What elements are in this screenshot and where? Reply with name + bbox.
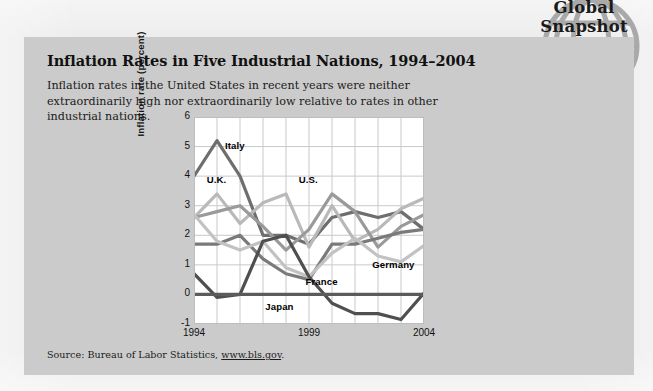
badge-line-2: Snapshot: [515, 17, 653, 36]
y-tick-label: 2: [164, 228, 190, 239]
inflation-line-chart: Inflation rate (percent) -10123456 19941…: [139, 115, 449, 345]
y-tick-label: 1: [164, 258, 190, 269]
source-note: Source: Bureau of Labor Statistics, www.…: [47, 349, 284, 360]
y-tick-label: 6: [164, 110, 190, 121]
y-tick-label: 5: [164, 140, 190, 151]
series-label-germany: Germany: [372, 259, 414, 270]
page-title: Inflation Rates in Five Industrial Natio…: [47, 52, 475, 69]
series-label-italy: Italy: [225, 140, 245, 151]
series-label-japan: Japan: [265, 301, 293, 312]
source-prefix: Source: Bureau of Labor Statistics,: [47, 349, 221, 360]
series-label-us: U.S.: [299, 174, 318, 185]
source-link[interactable]: www.bls.gov: [221, 349, 281, 360]
y-axis-ticks: -10123456: [159, 115, 190, 324]
x-tick-label: 2004: [413, 327, 435, 338]
x-tick-label: 1994: [183, 327, 205, 338]
y-tick-label: 3: [164, 199, 190, 210]
series-label-france: France: [306, 276, 338, 287]
y-axis-label: Inflation rate (percent): [135, 19, 146, 149]
x-tick-label: 1999: [298, 327, 320, 338]
y-tick-label: 4: [164, 169, 190, 180]
x-axis-ticks: 199419992004: [194, 327, 424, 343]
source-suffix: .: [281, 349, 284, 360]
series-label-uk: U.K.: [207, 174, 227, 185]
badge-line-1: Global: [515, 0, 653, 17]
content-panel: Inflation Rates in Five Industrial Natio…: [24, 37, 634, 375]
y-tick-label: 0: [164, 287, 190, 298]
